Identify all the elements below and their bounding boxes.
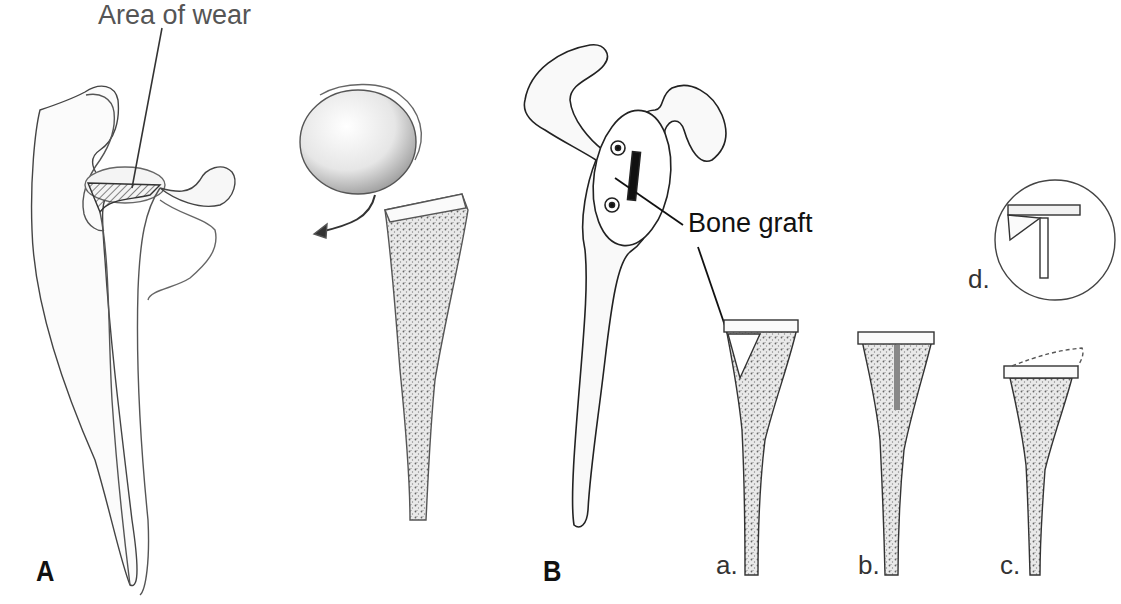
subfigure-label-c: c. bbox=[1000, 550, 1020, 581]
subfigure-a-illustration bbox=[724, 320, 798, 575]
humeral-prosthesis-illustration bbox=[300, 84, 468, 520]
panel-label-a: A bbox=[36, 554, 54, 588]
glenoid-wear-illustration bbox=[32, 28, 235, 595]
shoulder-arthroplasty-figure: Area of wear Bone graft A B a. b. c. d. bbox=[0, 0, 1121, 604]
subfigure-b-illustration bbox=[858, 332, 934, 575]
subfigure-label-d: d. bbox=[968, 264, 990, 295]
subfigure-d-inset-illustration bbox=[995, 180, 1115, 300]
subfigure-c-illustration bbox=[1004, 348, 1083, 575]
bone-graft-callout: Bone graft bbox=[688, 208, 813, 239]
panel-label-b: B bbox=[543, 554, 561, 588]
scapula-bone-graft-illustration bbox=[524, 45, 735, 527]
illustration-canvas bbox=[0, 0, 1121, 604]
area-of-wear-callout: Area of wear bbox=[98, 0, 251, 31]
subfigure-label-b: b. bbox=[858, 550, 880, 581]
subfigure-label-a: a. bbox=[716, 550, 738, 581]
